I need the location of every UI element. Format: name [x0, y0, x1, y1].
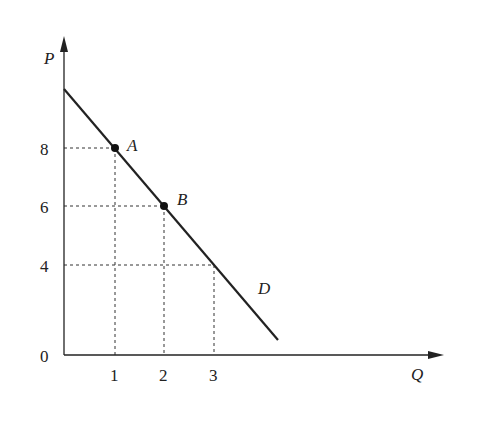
demand-chart: P Q 0 8 6 4 1 2 3 A B D — [0, 0, 477, 422]
x-tick-1: 1 — [110, 366, 119, 385]
x-axis-arrow-icon — [428, 351, 444, 359]
reference-lines — [64, 148, 214, 355]
point-a-marker — [111, 144, 119, 152]
origin-label: 0 — [40, 347, 49, 366]
x-axis-label: Q — [411, 365, 423, 384]
curve-d-label: D — [257, 279, 271, 298]
x-tick-2: 2 — [159, 366, 168, 385]
point-b-marker — [160, 202, 168, 210]
demand-curve — [64, 89, 278, 340]
y-tick-8: 8 — [40, 140, 49, 159]
point-b-label: B — [177, 190, 188, 209]
y-axis-arrow-icon — [60, 36, 68, 52]
y-axis-label: P — [43, 49, 54, 68]
y-tick-6: 6 — [40, 198, 49, 217]
point-a-label: A — [126, 136, 138, 155]
y-tick-4: 4 — [40, 257, 49, 276]
x-tick-3: 3 — [209, 366, 218, 385]
